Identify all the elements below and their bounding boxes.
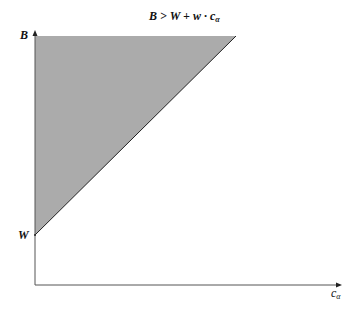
diagram-canvas <box>0 0 361 314</box>
x-axis-label: cα <box>331 286 341 301</box>
y-label-w: W <box>18 228 29 243</box>
y-axis-arrow-icon <box>33 30 38 36</box>
w-intercept-point <box>34 234 36 236</box>
y-label-b: B <box>20 28 28 43</box>
inequality-title: B > W + w · cα <box>149 9 220 24</box>
